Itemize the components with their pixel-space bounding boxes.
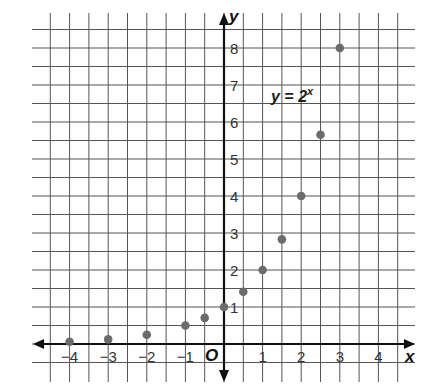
x-tick-label: 4: [374, 348, 382, 365]
x-tick-label: −4: [61, 348, 78, 365]
y-tick-label: 5: [230, 151, 238, 168]
data-point: [316, 130, 325, 139]
data-point: [297, 192, 306, 201]
data-point: [258, 266, 267, 275]
data-point: [336, 44, 345, 53]
exponential-chart: −4−3−2−11234 12345678 x y O y = 2x: [0, 0, 438, 389]
y-tick-label: 8: [230, 40, 238, 57]
y-tick-label: 3: [230, 225, 238, 242]
x-tick-label: −3: [100, 348, 117, 365]
axes: [33, 13, 415, 382]
x-tick-label: 1: [258, 348, 266, 365]
data-point: [181, 321, 190, 330]
x-axis-left-arrow-icon: [33, 339, 44, 349]
data-point: [278, 235, 287, 244]
y-tick-label: 7: [230, 77, 238, 94]
data-point: [65, 337, 74, 346]
data-point: [143, 330, 152, 339]
x-tick-label: −2: [138, 348, 155, 365]
origin-label: O: [205, 346, 218, 365]
equation-annotation: y = 2x: [270, 85, 314, 105]
equation-base: y = 2: [270, 88, 307, 105]
data-point: [200, 314, 209, 323]
data-point: [220, 303, 229, 312]
y-tick-label: 6: [230, 114, 238, 131]
y-tick-label: 2: [230, 262, 238, 279]
y-axis-label: y: [228, 7, 240, 26]
y-tick-label: 4: [230, 188, 238, 205]
x-tick-label: −1: [177, 348, 194, 365]
x-axis-label: x: [404, 347, 416, 366]
y-axis-down-arrow-icon: [219, 370, 229, 382]
data-point: [104, 335, 113, 344]
x-tick-label: 2: [297, 348, 305, 365]
equation-exponent: x: [306, 85, 314, 97]
y-tick-label: 1: [230, 299, 238, 316]
x-tick-label: 3: [336, 348, 344, 365]
y-axis-up-arrow-icon: [219, 13, 229, 25]
data-point: [239, 287, 248, 296]
